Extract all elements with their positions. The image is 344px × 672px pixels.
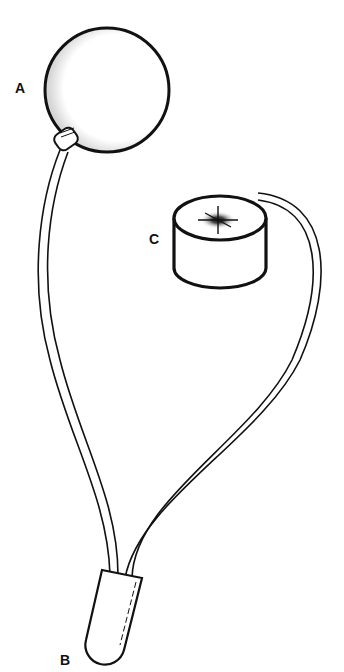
component-c-cylinder [174,196,266,288]
label-a: A [15,80,25,96]
component-a-sphere [45,28,169,153]
tube-a-to-b [38,150,118,575]
label-c: C [149,231,159,247]
component-b-connector [85,570,142,665]
apparatus-diagram [0,0,344,672]
label-b: B [60,652,70,668]
